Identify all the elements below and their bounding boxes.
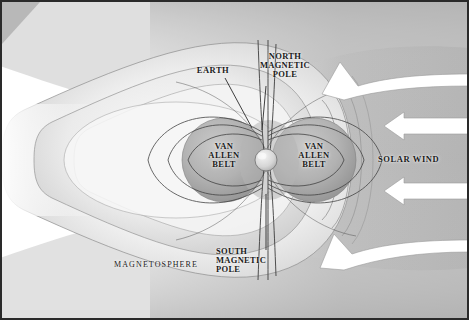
label-south-magnetic-pole: SOUTH MAGNETIC POLE (216, 247, 290, 275)
label-van-allen-belt-left: VAN ALLEN BELT (196, 142, 252, 170)
label-magnetosphere: MAGNETOSPHERE (96, 261, 216, 270)
label-north-magnetic-pole: NORTH MAGNETIC POLE (248, 52, 322, 80)
label-earth: EARTH (186, 66, 240, 75)
magnetosphere-diagram: EARTH NORTH MAGNETIC POLE SOUTH MAGNETIC… (0, 0, 469, 320)
label-van-allen-belt-right: VAN ALLEN BELT (286, 142, 342, 170)
label-solar-wind: SOLAR WIND (378, 155, 464, 164)
earth-sphere (255, 149, 277, 171)
